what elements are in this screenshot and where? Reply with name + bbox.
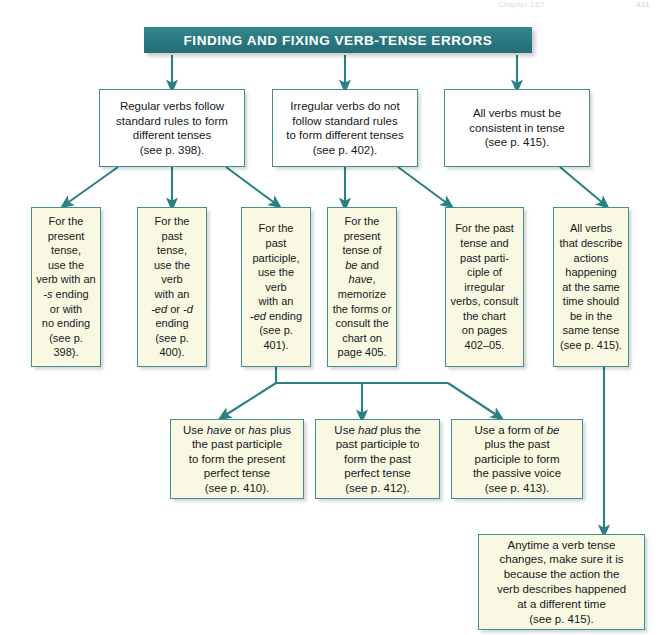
- node-text: All verbs that describe actions happenin…: [554, 221, 628, 352]
- node-same-time-same-tense[interactable]: All verbs that describe actions happenin…: [553, 207, 629, 367]
- node-irregular-verbs[interactable]: Irregular verbs do not follow standard r…: [272, 89, 418, 167]
- node-text: All verbs must be consistent in tense (s…: [445, 106, 589, 150]
- node-text: For the past tense and past parti- ciple…: [446, 221, 523, 352]
- running-head-chapter: Chapter 16?: [498, 0, 544, 9]
- node-be-have-present[interactable]: For the present tense of be and have, me…: [327, 207, 397, 367]
- node-past-perfect[interactable]: Use had plus the past participle to form…: [315, 419, 440, 499]
- node-present-tense[interactable]: For the present tense, use the verb with…: [31, 207, 101, 367]
- node-regular-verbs[interactable]: Regular verbs follow standard rules to f…: [99, 89, 245, 167]
- node-text: Use have or has plus the past participle…: [171, 423, 303, 496]
- node-tense-change-reason[interactable]: Anytime a verb tense changes, make sure …: [478, 534, 645, 630]
- node-text: Use had plus the past participle to form…: [316, 423, 439, 496]
- chart-title: FINDING AND FIXING VERB-TENSE ERRORS: [184, 33, 493, 48]
- running-head-folio: 421: [636, 0, 650, 9]
- node-present-perfect[interactable]: Use have or has plus the past participle…: [170, 419, 304, 499]
- chart-title-banner: FINDING AND FIXING VERB-TENSE ERRORS: [144, 27, 532, 53]
- node-text: For the present tense of be and have, me…: [328, 214, 396, 360]
- node-text: Use a form of be plus the past participl…: [452, 423, 582, 496]
- node-text: Regular verbs follow standard rules to f…: [100, 99, 244, 157]
- node-irregular-chart[interactable]: For the past tense and past parti- ciple…: [445, 207, 524, 367]
- node-text: Irregular verbs do not follow standard r…: [273, 99, 417, 157]
- node-past-tense[interactable]: For the past tense, use the verb with an…: [137, 207, 207, 367]
- flowchart-page: Chapter 16? 421: [0, 0, 669, 635]
- node-text: For the past participle, use the verb wi…: [242, 221, 310, 352]
- node-consistent-tense[interactable]: All verbs must be consistent in tense (s…: [444, 89, 590, 167]
- node-text: For the present tense, use the verb with…: [32, 214, 100, 360]
- node-text: Anytime a verb tense changes, make sure …: [479, 538, 644, 627]
- node-past-participle[interactable]: For the past participle, use the verb wi…: [241, 207, 311, 367]
- node-text: For the past tense, use the verb with an…: [138, 214, 206, 360]
- node-passive-voice[interactable]: Use a form of be plus the past participl…: [451, 419, 583, 499]
